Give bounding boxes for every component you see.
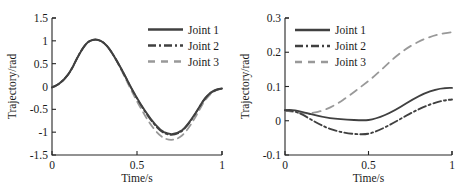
x-tick-label: 0 bbox=[49, 159, 55, 171]
y-tick-label: -0.5 bbox=[30, 103, 48, 115]
legend-label-joint-1: Joint 1 bbox=[335, 24, 366, 36]
curve-joint-3 bbox=[285, 32, 452, 113]
legend-label-joint-3: Joint 3 bbox=[188, 56, 219, 68]
curve-joint-1 bbox=[285, 88, 452, 120]
legend-right: Joint 1 Joint 2 Joint 3 bbox=[295, 24, 366, 68]
y-axis-title: Trajectory/rad bbox=[6, 54, 19, 120]
x-tick-label: 0 bbox=[282, 159, 288, 171]
x-axis-title: Time/s bbox=[121, 172, 153, 184]
chart-panel-right: 0.3 0.2 0.1 0 -0.1 0 0.5 1 Time/s Trajec… bbox=[233, 0, 466, 187]
x-tick-label: 1 bbox=[219, 159, 225, 171]
x-tick-label: 0.5 bbox=[130, 159, 145, 171]
y-tick-label: 1 bbox=[42, 35, 48, 47]
legend-label-joint-2: Joint 2 bbox=[188, 40, 219, 52]
y-tick-label: 0.5 bbox=[34, 58, 49, 70]
legend-entry-joint-2[interactable]: Joint 2 bbox=[295, 40, 366, 52]
x-axis-ticks-left bbox=[52, 151, 222, 155]
legend-entry-joint-1[interactable]: Joint 1 bbox=[295, 24, 366, 36]
y-tick-label: 1.5 bbox=[34, 12, 49, 24]
legend-label-joint-1: Joint 1 bbox=[188, 24, 219, 36]
y-axis-tick-labels-left: 1.5 1 0.5 0 -0.5 -1 -1.5 bbox=[30, 12, 48, 161]
x-axis-tick-labels-right: 0 0.5 1 bbox=[282, 159, 455, 171]
y-tick-label: 0.2 bbox=[267, 46, 282, 58]
legend-entry-joint-3[interactable]: Joint 3 bbox=[148, 56, 219, 68]
legend-label-joint-3: Joint 3 bbox=[335, 56, 366, 68]
y-tick-label: -1.5 bbox=[30, 149, 48, 161]
y-tick-label: 0 bbox=[42, 81, 48, 93]
legend-entry-joint-1[interactable]: Joint 1 bbox=[148, 24, 219, 36]
chart-svg-left: 1.5 1 0.5 0 -0.5 -1 -1.5 0 0.5 1 Tim bbox=[0, 0, 233, 187]
y-tick-label: -0.1 bbox=[263, 149, 281, 161]
y-axis-title: Trajectory/rad bbox=[239, 54, 252, 120]
y-axis-tick-labels-right: 0.3 0.2 0.1 0 -0.1 bbox=[263, 12, 281, 161]
x-tick-label: 1 bbox=[449, 159, 455, 171]
legend-entry-joint-3[interactable]: Joint 3 bbox=[295, 56, 366, 68]
x-tick-label: 0.5 bbox=[361, 159, 376, 171]
data-curves-right bbox=[285, 32, 452, 134]
curve-joint-2 bbox=[285, 100, 452, 135]
legend-label-joint-2: Joint 2 bbox=[335, 40, 366, 52]
y-tick-label: 0 bbox=[275, 115, 281, 127]
legend-left: Joint 1 Joint 2 Joint 3 bbox=[148, 24, 219, 68]
y-axis-ticks-right bbox=[285, 18, 289, 155]
x-axis-title: Time/s bbox=[353, 172, 385, 184]
x-axis-tick-labels-left: 0 0.5 1 bbox=[49, 159, 225, 171]
curve-joint-2 bbox=[52, 40, 222, 135]
chart-svg-right: 0.3 0.2 0.1 0 -0.1 0 0.5 1 Time/s Trajec… bbox=[233, 0, 466, 187]
y-tick-label: -1 bbox=[38, 126, 48, 138]
legend-entry-joint-2[interactable]: Joint 2 bbox=[148, 40, 219, 52]
curve-joint-1 bbox=[52, 40, 222, 135]
x-axis-ticks-right bbox=[285, 151, 452, 155]
y-tick-label: 0.1 bbox=[267, 81, 282, 93]
y-tick-label: 0.3 bbox=[267, 12, 282, 24]
chart-panel-left: 1.5 1 0.5 0 -0.5 -1 -1.5 0 0.5 1 Tim bbox=[0, 0, 233, 187]
figure-container: 1.5 1 0.5 0 -0.5 -1 -1.5 0 0.5 1 Tim bbox=[0, 0, 466, 187]
